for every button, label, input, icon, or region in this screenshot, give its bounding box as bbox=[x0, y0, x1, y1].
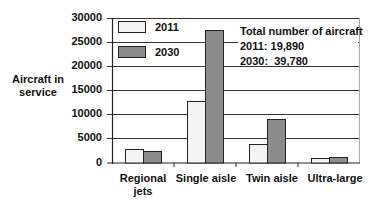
annotation-2030: 2030: 39,780 bbox=[240, 54, 363, 69]
legend-label-2030: 2030 bbox=[155, 46, 179, 58]
x-label-regional-line1: Regional bbox=[113, 172, 173, 185]
x-label-twin-aisle: Twin aisle bbox=[240, 172, 304, 185]
x-label-regional-jets: Regional jets bbox=[113, 172, 173, 198]
legend-label-2011: 2011 bbox=[155, 21, 179, 33]
annotation-2011: 2011: 19,890 bbox=[240, 39, 363, 54]
annotation-total: Total number of aircraft 2011: 19,890 20… bbox=[240, 24, 363, 69]
x-label-ultra-large: Ultra-large bbox=[300, 172, 370, 185]
x-label-single-aisle: Single aisle bbox=[170, 172, 242, 185]
legend-swatch-2030 bbox=[119, 47, 146, 58]
annotation-title: Total number of aircraft bbox=[240, 24, 363, 39]
x-label-regional-line2: jets bbox=[113, 185, 173, 198]
legend-swatch-2011 bbox=[119, 22, 146, 33]
